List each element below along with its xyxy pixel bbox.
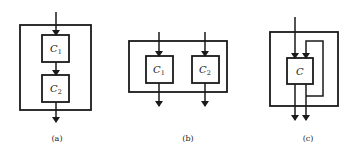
diagram-a-serial: C1 C2 (a): [20, 12, 91, 143]
diagram-b-parallel: C1 C2 (b): [129, 32, 227, 143]
component-label-c1: C1: [153, 64, 165, 77]
caption-b: (b): [182, 134, 193, 143]
outer-box-c: [270, 32, 338, 106]
component-label-c2: C2: [50, 83, 62, 96]
component-label-c: C: [296, 66, 304, 77]
component-label-c1: C1: [50, 43, 62, 56]
diagram-c-feedback: C (c): [270, 17, 338, 143]
component-label-c2: C2: [199, 64, 211, 77]
caption-c: (c): [303, 134, 314, 143]
composition-diagrams: C1 C2 (a) C1 C2 (b) C (c): [0, 0, 358, 152]
caption-a: (a): [51, 134, 62, 143]
outer-box-b: [129, 41, 227, 92]
feedback-loop-arrow: [306, 41, 323, 96]
